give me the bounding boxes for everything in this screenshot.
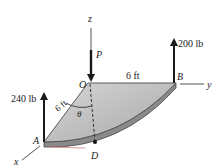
- x-axis-label: x: [13, 156, 19, 166]
- point-d-dot: [93, 140, 97, 144]
- x-axis: [22, 146, 40, 160]
- y-axis-label: y: [206, 79, 212, 90]
- load-240lb-arrow: [40, 92, 48, 142]
- z-axis-label: z: [87, 13, 92, 24]
- point-b-label: B: [177, 71, 183, 82]
- load-240lb-label: 240 lb: [11, 93, 36, 104]
- diagram-canvas: z θ y x P 200 lb 240 lb O B A D 6 ft 6 f…: [0, 0, 220, 166]
- load-200lb-label: 200 lb: [178, 38, 203, 49]
- load-p-label: P: [95, 49, 102, 60]
- point-o-label: O: [79, 79, 86, 90]
- point-a-label: A: [32, 135, 40, 146]
- load-p-arrow: [87, 50, 95, 82]
- point-d-label: D: [90, 150, 99, 161]
- theta-label: θ: [77, 109, 82, 119]
- dimension-ob-label: 6 ft: [126, 70, 140, 81]
